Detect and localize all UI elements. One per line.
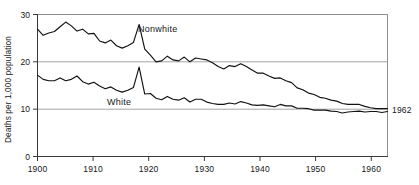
x-axis: 1900 1910 1920 1930 1940 1950 1960 bbox=[28, 157, 388, 175]
x-tick-label-1910: 1910 bbox=[83, 164, 103, 174]
x-tick-label-1940: 1940 bbox=[250, 164, 270, 174]
x-tick-label-1930: 1930 bbox=[195, 164, 215, 174]
series-line-nonwhite bbox=[38, 22, 388, 109]
x-tick-label-1960: 1960 bbox=[361, 164, 381, 174]
end-year-annotation: 1962 bbox=[392, 105, 412, 115]
x-tick-label-1900: 1900 bbox=[28, 164, 48, 174]
gridlines bbox=[37, 62, 388, 109]
plot-frame bbox=[37, 15, 388, 157]
y-tick-label-0: 0 bbox=[25, 152, 30, 162]
series-label-nonwhite: Nonwhite bbox=[138, 24, 178, 34]
y-tick-label-10: 10 bbox=[21, 104, 31, 114]
y-tick-label-20: 20 bbox=[21, 57, 31, 67]
line-chart: 30 20 10 0 Deaths per 1,000 population 1… bbox=[0, 0, 419, 185]
x-tick-label-1920: 1920 bbox=[139, 164, 159, 174]
series-line-white bbox=[38, 67, 388, 113]
y-axis-title: Deaths per 1,000 population bbox=[3, 36, 13, 143]
y-axis: 30 20 10 0 bbox=[21, 10, 38, 162]
chart-container: 30 20 10 0 Deaths per 1,000 population 1… bbox=[0, 0, 419, 185]
y-tick-label-30: 30 bbox=[21, 10, 31, 20]
series-label-white: White bbox=[107, 97, 131, 107]
x-tick-label-1950: 1950 bbox=[306, 164, 326, 174]
